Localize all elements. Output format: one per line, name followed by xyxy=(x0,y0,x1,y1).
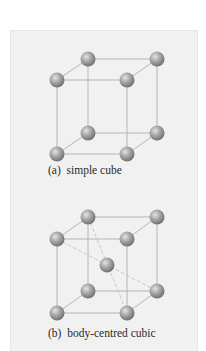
atom xyxy=(81,284,96,299)
body-centre-atom xyxy=(100,258,115,273)
atom xyxy=(150,284,165,299)
atom xyxy=(50,306,65,321)
atoms xyxy=(50,52,165,162)
caption-body-centred-cubic: (b) body-centred cubic xyxy=(48,327,156,339)
atom xyxy=(150,126,165,141)
atom xyxy=(150,210,165,225)
atom xyxy=(50,73,65,88)
cube-edges xyxy=(57,59,157,154)
atoms xyxy=(50,210,165,321)
body-centred-cubic-diagram xyxy=(50,210,165,321)
atom xyxy=(120,232,135,247)
caption-simple-cube: (a) simple cube xyxy=(48,164,122,176)
atom xyxy=(50,147,65,162)
atom xyxy=(120,147,135,162)
atom xyxy=(81,52,96,67)
atom xyxy=(150,52,165,67)
atom xyxy=(50,232,65,247)
atom xyxy=(81,210,96,225)
atom xyxy=(120,73,135,88)
atom xyxy=(81,126,96,141)
atom xyxy=(120,306,135,321)
simple-cube-diagram xyxy=(50,52,165,162)
